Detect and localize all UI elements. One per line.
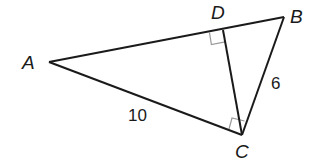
segment-cd [223,30,242,135]
measure-bc: 6 [271,74,280,93]
vertex-label-d: D [211,2,225,23]
segment-ab [49,17,284,62]
triangle-diagram: A D B C 10 6 [0,0,321,161]
vertex-label-c: C [235,141,249,161]
right-angle-mark-c [229,118,245,129]
measure-ac: 10 [128,106,147,125]
vertex-label-a: A [21,52,35,73]
vertex-label-b: B [290,6,303,27]
